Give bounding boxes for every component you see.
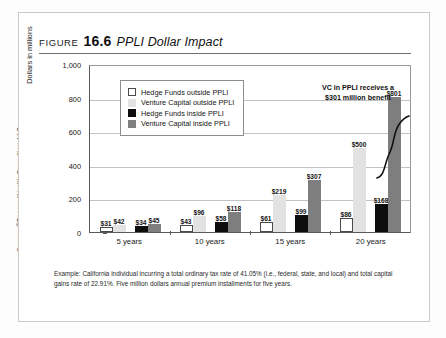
inside-pair: $99 $307: [295, 180, 321, 232]
figure-page: Source: ©Beacon Wealth Consulting, LLC F…: [0, 0, 446, 338]
bar-value-label: $61: [260, 215, 271, 222]
legend-label: Hedge Funds outside PPLI: [141, 88, 228, 97]
x-tick-label-20-years: 20 years: [331, 237, 412, 246]
bar-venture-capital-inside[interactable]: $307: [308, 180, 321, 232]
x-tick-label-15-years: 15 years: [250, 237, 331, 246]
bar-hedge-funds-inside[interactable]: $99: [295, 215, 308, 232]
bar-venture-capital-inside[interactable]: $45: [148, 224, 161, 232]
bar-value-label: $219: [272, 188, 287, 195]
y-axis-title: Dollars in millions: [25, 0, 34, 115]
legend-swatch-icon: [128, 88, 136, 96]
outside-pair: $86 $500: [340, 148, 366, 232]
figure-title: FIGURE 16.6 PPLI Dollar Impact: [39, 33, 411, 54]
legend-swatch-icon: [128, 109, 136, 117]
bar-value-label: $99: [295, 208, 306, 215]
figure-footnote: Example: California individual incurring…: [54, 269, 398, 289]
bar-value-label: $86: [340, 211, 351, 218]
figure-label: FIGURE: [39, 37, 79, 48]
bar-value-label: $307: [307, 173, 322, 180]
outside-pair: $31 $42: [100, 225, 126, 232]
bar-value-label: $168: [374, 197, 389, 204]
chart-plot-area: Dollars in millions 1,000 800 600 400 20…: [39, 65, 413, 263]
legend-label: Venture Capital inside PPLI: [141, 119, 230, 128]
legend-swatch-icon: [128, 99, 136, 107]
bar-hedge-funds-outside[interactable]: $86: [340, 218, 353, 232]
bar-hedge-funds-inside[interactable]: $168: [375, 204, 388, 232]
legend-item-venture-capital-inside[interactable]: Venture Capital inside PPLI: [128, 119, 234, 128]
y-tick-label: 400: [69, 161, 81, 170]
bar-value-label: $31: [100, 220, 111, 227]
legend-swatch-icon: [128, 120, 136, 128]
figure-frame: FIGURE 16.6 PPLI Dollar Impact Dollars i…: [18, 12, 430, 322]
chart-annotation: VC in PPLI receives a $301 million benef…: [298, 84, 418, 103]
figure-number: 16.6: [84, 33, 112, 49]
inside-pair: $34 $45: [135, 224, 161, 232]
legend-item-hedge-funds-outside[interactable]: Hedge Funds outside PPLI: [128, 88, 234, 97]
bar-hedge-funds-outside[interactable]: $61: [260, 222, 273, 232]
y-tick-label: 600: [69, 128, 81, 137]
legend-label: Venture Capital outside PPLI: [141, 98, 234, 107]
chart-axes: $31 $42 $34 $45: [89, 65, 411, 233]
inside-pair: $58 $118: [215, 212, 241, 232]
bar-hedge-funds-outside[interactable]: $31: [100, 227, 113, 232]
y-tick-label: 800: [69, 94, 81, 103]
bar-value-label: $96: [193, 209, 204, 216]
bar-hedge-funds-inside[interactable]: $34: [135, 226, 148, 232]
bar-venture-capital-inside[interactable]: $118: [228, 212, 241, 232]
y-tick-mark: [103, 233, 107, 234]
x-tick-label-5-years: 5 years: [89, 237, 170, 246]
bar-hedge-funds-outside[interactable]: $43: [180, 225, 193, 232]
bar-value-label: $118: [227, 205, 241, 212]
legend-item-venture-capital-outside[interactable]: Venture Capital outside PPLI: [128, 98, 234, 107]
chart-legend: Hedge Funds outside PPLI Venture Capital…: [120, 80, 244, 136]
y-tick-label: 200: [69, 195, 81, 204]
x-tick-label-10-years: 10 years: [170, 237, 251, 246]
bar-value-label: $34: [135, 219, 146, 226]
outside-pair: $61 $219: [260, 195, 286, 232]
bar-venture-capital-outside[interactable]: $500: [353, 148, 366, 232]
legend-label: Hedge Funds inside PPLI: [141, 109, 224, 118]
bar-value-label: $43: [180, 218, 191, 225]
x-axis-labels: 5 years 10 years 15 years 20 years: [89, 237, 411, 246]
figure-name: PPLI Dollar Impact: [117, 35, 223, 49]
outside-pair: $43 $96: [180, 216, 206, 232]
annotation-line-2: $301 million benefit: [298, 94, 418, 104]
y-tick-label: 1,000: [63, 61, 82, 70]
bar-value-label: $45: [148, 217, 159, 224]
bar-value-label: $58: [215, 215, 226, 222]
bar-venture-capital-outside[interactable]: $42: [113, 225, 126, 232]
y-tick-label: 0: [77, 229, 81, 238]
bar-hedge-funds-inside[interactable]: $58: [215, 222, 228, 232]
bar-value-label: $42: [113, 218, 124, 225]
bar-venture-capital-outside[interactable]: $219: [273, 195, 286, 232]
benefit-brace-icon: [373, 112, 413, 180]
y-axis-ticks: 1,000 800 600 400 200 0: [53, 65, 85, 233]
legend-item-hedge-funds-inside[interactable]: Hedge Funds inside PPLI: [128, 109, 234, 118]
bar-venture-capital-outside[interactable]: $96: [193, 216, 206, 232]
bar-value-label: $500: [352, 141, 367, 148]
annotation-line-1: VC in PPLI receives a: [298, 84, 418, 94]
